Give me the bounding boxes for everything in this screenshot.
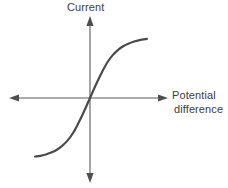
x-axis-arrow-right-icon [158, 94, 168, 101]
x-axis-arrow-left-icon [9, 94, 19, 101]
x-axis-label-line-1: Potential [172, 89, 216, 101]
y-axis-arrow-down-icon [86, 173, 93, 183]
y-axis-arrow-up-icon [86, 16, 93, 26]
iv-characteristic-figure: Current Potentialdifference [0, 0, 228, 188]
y-axis-label: Current [67, 1, 104, 15]
x-axis-label-line-2: difference [172, 102, 223, 116]
x-axis-label: Potentialdifference [172, 88, 223, 116]
